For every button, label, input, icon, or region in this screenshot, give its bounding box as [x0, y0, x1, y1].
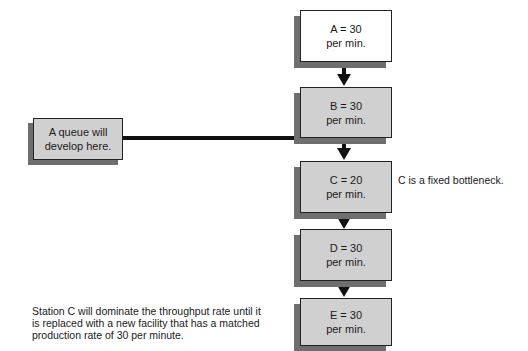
station-c-rate: per min. — [301, 187, 391, 201]
queue-callout-line1: A queue will — [34, 125, 122, 139]
bottleneck-note: C is a fixed bottleneck. — [398, 174, 504, 186]
station-d: D = 30 per min. — [300, 229, 392, 281]
station-d-rate: per min. — [301, 255, 391, 269]
queue-callout-line2: develop here. — [34, 139, 122, 153]
station-a-rate: per min. — [301, 36, 391, 50]
station-e: E = 30 per min. — [300, 298, 392, 346]
arrow-b-c-icon — [337, 148, 351, 160]
station-c-label: C = 20 — [301, 173, 391, 187]
summary-note-line3: production rate of 30 per minute. — [32, 329, 261, 341]
arrow-a-b-icon — [337, 74, 351, 86]
station-e-rate: per min. — [301, 322, 391, 336]
queue-callout: A queue will develop here. — [33, 118, 123, 160]
station-e-label: E = 30 — [301, 308, 391, 322]
summary-note: Station C will dominate the throughput r… — [32, 305, 261, 341]
station-b-label: B = 30 — [301, 99, 391, 113]
station-b: B = 30 per min. — [300, 87, 392, 138]
station-d-label: D = 30 — [301, 241, 391, 255]
arrow-d-e-icon — [337, 285, 351, 297]
station-c: C = 20 per min. — [300, 161, 392, 213]
summary-note-line2: is replaced with a new facility that has… — [32, 317, 261, 329]
station-a: A = 30 per min. — [300, 10, 392, 62]
arrow-c-d-icon — [337, 217, 351, 229]
station-b-rate: per min. — [301, 113, 391, 127]
station-a-label: A = 30 — [301, 22, 391, 36]
summary-note-line1: Station C will dominate the throughput r… — [32, 305, 261, 317]
